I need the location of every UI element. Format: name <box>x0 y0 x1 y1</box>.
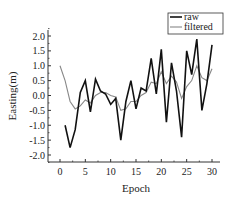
x-tick-label: 15 <box>131 166 141 177</box>
x-tick-label: 25 <box>182 166 192 177</box>
line-chart: 2.01.51.00.50.0-0.5-1.0-1.5-2.0051015202… <box>0 0 239 202</box>
x-tick-label: 30 <box>207 166 217 177</box>
x-tick-label: 0 <box>58 166 63 177</box>
axes: 2.01.51.00.50.0-0.5-1.0-1.5-2.0051015202… <box>29 29 220 177</box>
y-tick-label: 2.0 <box>33 31 46 42</box>
x-tick-label: 10 <box>106 166 116 177</box>
y-axis-label: Easting(m) <box>6 71 19 120</box>
series-raw <box>65 39 212 148</box>
y-tick-label: 1.0 <box>33 60 46 71</box>
y-tick-label: 0.0 <box>33 90 46 101</box>
legend: rawfiltered <box>168 11 223 34</box>
x-tick-label: 5 <box>83 166 88 177</box>
y-tick-label: 0.5 <box>33 75 46 86</box>
y-tick-label: -1.0 <box>29 120 45 131</box>
legend-label-filtered: filtered <box>184 21 213 32</box>
x-tick-label: 20 <box>156 166 166 177</box>
series-lines <box>60 39 212 148</box>
y-tick-label: -2.0 <box>29 150 45 161</box>
x-axis-label: Epoch <box>122 182 151 194</box>
y-tick-label: 1.5 <box>33 45 46 56</box>
y-tick-label: -0.5 <box>29 105 45 116</box>
y-tick-label: -1.5 <box>29 135 45 146</box>
